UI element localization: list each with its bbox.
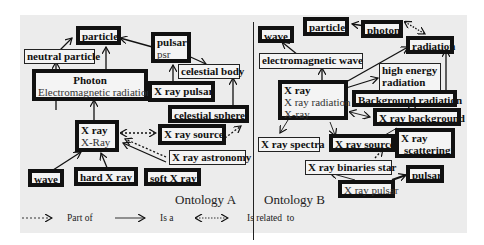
node-a-hard-x-ray[interactable]: hard X ray [74,167,138,186]
legend-is-a-label: Is a [160,213,173,223]
edge-astronomy-xray [123,143,166,162]
node-a-x-ray-pulsar[interactable]: X ray pulsar [148,81,215,102]
node-b-pulsar[interactable]: pulsar [406,165,444,183]
edge-xray-xraybg [350,112,370,117]
node-a-celestial-body[interactable]: celestial body [178,64,240,79]
edge-xray-spectra [280,120,288,133]
node-b-x-ray-pulsar[interactable]: X ray pulsar [338,180,395,198]
node-a-celestial-sphere[interactable]: celestial sphere [168,105,249,123]
node-b-x-ray-background[interactable]: X ray background [373,108,461,126]
node-a-photon[interactable]: PhotonElectromagnetic radiation [32,69,148,101]
caption-ontology-b: Ontology B [264,192,325,208]
edge-source-sphere [225,126,241,138]
node-b-x-ray[interactable]: X rayX ray radiationX-ray [278,80,348,120]
caption-ontology-a: Ontology A [175,192,236,208]
node-b-x-ray-source[interactable]: X ray source [329,134,395,152]
node-a-x-ray-astronomy[interactable]: X ray astronomy [169,150,246,165]
node-a-soft-x-ray[interactable]: soft X ray [144,168,201,186]
node-b-background-radiation[interactable]: Background radiation [352,90,457,107]
node-a-x-ray-source[interactable]: X ray source [158,124,226,145]
node-a-particle[interactable]: particle [76,26,121,45]
node-a-pulsar[interactable]: pulsarpsr [151,32,191,63]
node-a-wave[interactable]: wave [28,169,64,187]
node-b-high-energy-radiation[interactable]: high energyradiation [379,63,441,91]
legend-related-label: Is related to [247,213,294,223]
node-b-electromagnetic-wave[interactable]: electromagnetic wave [259,53,363,69]
node-a-x-ray[interactable]: X rayX-Ray [75,120,119,152]
node-b-radiation[interactable]: radiation [406,36,454,54]
node-a-neutral-particle[interactable]: neutral particle [24,49,95,64]
edge-photon-radiation [405,22,425,34]
node-b-x-ray-binaries-star[interactable]: X ray binaries star [305,160,392,175]
node-b-x-ray-scattering[interactable]: X rayscattering [395,128,455,158]
node-b-x-ray-spectra[interactable]: X ray spectra [258,137,320,152]
legend-part-of-label: Part of [67,213,93,223]
node-b-photon[interactable]: photon [361,20,403,38]
node-b-wave[interactable]: wave [258,26,294,43]
node-b-particle[interactable]: particle [303,17,349,36]
